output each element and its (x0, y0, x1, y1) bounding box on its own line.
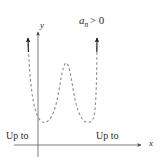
y-axis-label: y (40, 20, 44, 30)
up-to-left-annotation: Up to left (6, 108, 29, 164)
up-to-right-line1: Up to (96, 130, 119, 141)
relation-symbol: > 0 (88, 14, 104, 26)
up-to-right-annotation: Up to right (96, 108, 119, 164)
x-axis-label: x (149, 138, 153, 148)
polynomial-curve (28, 44, 97, 122)
up-to-left-line1: Up to (6, 130, 29, 141)
leading-coefficient-condition-label: an> 0 (68, 2, 104, 42)
polynomial-end-behavior-figure: an> 0 y x Up to left Up to right (0, 0, 164, 164)
